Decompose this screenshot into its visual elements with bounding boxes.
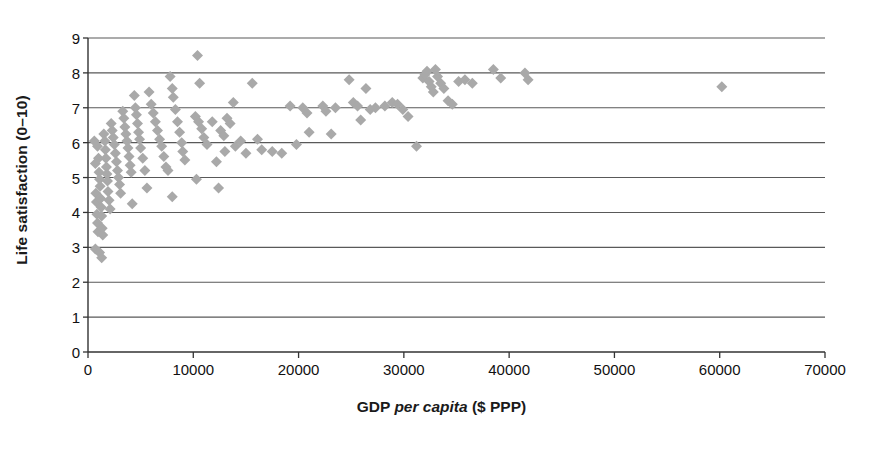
data-point [96, 210, 107, 221]
y-tick-label: 2 [58, 275, 80, 290]
data-point [118, 113, 129, 124]
data-point [121, 135, 132, 146]
data-point [98, 128, 109, 139]
data-point [344, 74, 355, 85]
data-point [392, 99, 403, 110]
y-tick-label: 5 [58, 170, 80, 185]
data-point [432, 71, 443, 82]
data-point [167, 83, 178, 94]
data-point [165, 71, 176, 82]
data-point [156, 141, 167, 152]
data-point [276, 148, 287, 159]
data-point [267, 146, 278, 157]
data-point [154, 134, 165, 145]
x-tick-label: 30000 [383, 362, 425, 377]
data-point [177, 146, 188, 157]
data-point [131, 109, 142, 120]
data-point [170, 104, 181, 115]
data-point [100, 144, 111, 155]
data-point [91, 209, 102, 220]
data-point [174, 127, 185, 138]
data-point [117, 106, 128, 117]
data-point [90, 244, 101, 255]
data-point [201, 139, 212, 150]
y-tick-label: 4 [58, 205, 80, 220]
data-point [252, 134, 263, 145]
data-point [137, 153, 148, 164]
data-point [213, 183, 224, 194]
data-point [112, 165, 123, 176]
y-tick-label: 8 [58, 65, 80, 80]
data-point [379, 101, 390, 112]
data-point [135, 142, 146, 153]
data-point [330, 102, 341, 113]
data-point [495, 73, 506, 84]
data-point [163, 165, 174, 176]
data-point [167, 191, 178, 202]
data-point [397, 104, 408, 115]
data-point [211, 156, 222, 167]
data-point [92, 141, 103, 152]
data-point [93, 226, 104, 237]
data-point [320, 106, 331, 117]
data-point [90, 188, 101, 199]
data-point [428, 87, 439, 98]
data-point [101, 162, 112, 173]
data-point [297, 102, 308, 113]
data-point [225, 118, 236, 129]
axis-ticks [83, 38, 825, 358]
data-point [168, 92, 179, 103]
data-point [196, 123, 207, 134]
data-point [219, 146, 230, 157]
x-axis-title: GDP per capita ($ PPP) [0, 398, 883, 416]
data-point [411, 141, 422, 152]
data-point [240, 148, 251, 159]
data-point [193, 116, 204, 127]
data-point [119, 121, 130, 132]
data-point [134, 134, 145, 145]
data-point [158, 151, 169, 162]
data-point [96, 202, 107, 213]
data-point [97, 223, 108, 234]
data-point [194, 78, 205, 89]
data-point [100, 153, 111, 164]
data-point [146, 99, 157, 110]
data-point [467, 78, 478, 89]
data-point [91, 196, 102, 207]
data-point [256, 144, 267, 155]
data-point [133, 127, 144, 138]
data-point [109, 139, 120, 150]
x-axis-title-part: ($ PPP) [468, 398, 527, 415]
data-point [370, 102, 381, 113]
data-point [438, 83, 449, 94]
data-point [94, 247, 105, 258]
data-point [99, 135, 110, 146]
data-point [235, 135, 246, 146]
x-tick-label: 60000 [699, 362, 741, 377]
data-point [352, 101, 363, 112]
data-point [190, 111, 201, 122]
data-point [103, 186, 114, 197]
y-tick-label: 9 [58, 31, 80, 46]
data-point [285, 101, 296, 112]
data-point [113, 172, 124, 183]
data-point [228, 97, 239, 108]
data-point [291, 139, 302, 150]
data-point [348, 97, 359, 108]
y-tick-label: 7 [58, 100, 80, 115]
x-axis-title-part: per capita [394, 398, 467, 415]
data-point [403, 111, 414, 122]
data-point [447, 99, 458, 110]
data-point [435, 78, 446, 89]
data-point [97, 230, 108, 241]
axis-lines [88, 38, 825, 352]
data-point [218, 130, 229, 141]
data-point [111, 156, 122, 167]
x-tick-label: 50000 [594, 362, 636, 377]
data-point [443, 95, 454, 106]
data-point [519, 67, 530, 78]
data-point [152, 125, 163, 136]
data-point [355, 114, 366, 125]
data-point [215, 125, 226, 136]
data-point [95, 193, 106, 204]
